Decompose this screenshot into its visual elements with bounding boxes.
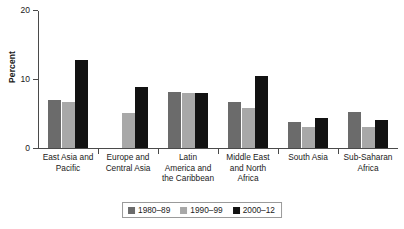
bar: [75, 60, 88, 148]
bar: [348, 112, 361, 148]
legend-label: 2000–12: [243, 205, 275, 215]
category-label-line: and North: [218, 163, 278, 174]
bar: [302, 127, 315, 148]
bar: [228, 102, 241, 148]
bar: [48, 100, 61, 148]
bar: [195, 93, 208, 148]
bar: [255, 76, 268, 148]
legend-label: 1990–99: [190, 205, 222, 215]
bar: [168, 92, 181, 148]
category-label-line: Latin: [158, 152, 218, 163]
category-label-line: Central Asia: [98, 163, 158, 174]
x-axis-category-labels: East Asia andPacificEurope andCentral As…: [38, 152, 398, 196]
category-label-line: Middle East: [218, 152, 278, 163]
x-axis-category-label: LatinAmerica andthe Caribbean: [158, 152, 218, 184]
y-axis-tick: 0: [33, 148, 38, 149]
x-axis-category-label: Middle Eastand NorthAfrica: [218, 152, 278, 184]
x-axis-category-label: East Asia andPacific: [38, 152, 98, 173]
legend-swatch-icon: [128, 207, 135, 214]
legend-swatch-icon: [233, 207, 240, 214]
bar-chart: Percent 01020 East Asia andPacificEurope…: [0, 0, 404, 229]
category-label-line: East Asia and: [38, 152, 98, 163]
legend-item: 2000–12: [233, 205, 275, 215]
bar: [315, 118, 328, 148]
category-label-line: Sub-Saharan: [338, 152, 398, 163]
chart-legend: 1980–891990–992000–12: [122, 202, 282, 218]
bar: [375, 120, 388, 148]
x-axis-category-label: Sub-SaharanAfrica: [338, 152, 398, 173]
category-label-line: America and: [158, 163, 218, 174]
legend-swatch-icon: [180, 207, 187, 214]
y-axis-line: [38, 11, 39, 149]
category-label-line: Africa: [338, 163, 398, 174]
legend-label: 1980–89: [138, 205, 170, 215]
category-label-line: Europe and: [98, 152, 158, 163]
bar: [135, 87, 148, 148]
category-label-line: South Asia: [278, 152, 338, 163]
y-axis-tick: 10: [33, 79, 38, 80]
y-axis-tick-label: 10: [21, 74, 30, 84]
legend-item: 1990–99: [180, 205, 222, 215]
bar: [122, 113, 135, 148]
category-label-line: Africa: [218, 173, 278, 184]
legend-item: 1980–89: [128, 205, 170, 215]
bar: [242, 108, 255, 148]
x-axis-category-label: Europe andCentral Asia: [98, 152, 158, 173]
bar: [182, 93, 195, 148]
y-axis-title: Percent: [7, 37, 17, 97]
bar: [362, 127, 375, 148]
y-axis-tick: 20: [33, 10, 38, 11]
y-axis-tick-label: 0: [25, 143, 30, 153]
x-axis-category-label: South Asia: [278, 152, 338, 163]
y-axis-tick-label: 20: [21, 5, 30, 15]
category-label-line: Pacific: [38, 163, 98, 174]
bar: [62, 102, 75, 148]
plot-area: 01020: [38, 11, 398, 149]
bar: [288, 122, 301, 148]
category-label-line: the Caribbean: [158, 173, 218, 184]
